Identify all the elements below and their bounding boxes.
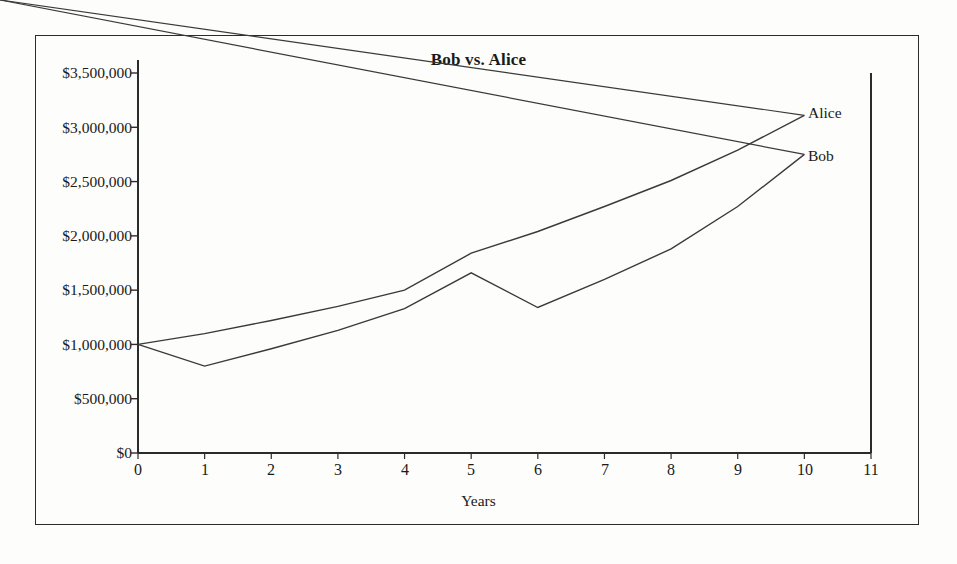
y-tick-label-0: $0 [12,445,132,461]
x-tick-label-6: 6 [518,462,558,478]
chart-page: Bob vs. Alice $0 $500,000 $1,000,000 $1,… [0,0,957,564]
x-tick-label-9: 9 [718,462,758,478]
x-tick-label-8: 8 [651,462,691,478]
y-tick-label-5: $2,500,000 [12,174,132,190]
x-tick-label-3: 3 [318,462,358,478]
x-tick-label-4: 4 [385,462,425,478]
y-tick-label-2: $1,000,000 [12,337,132,353]
y-tick-label-1: $500,000 [12,391,132,407]
y-tick-label-7: $3,500,000 [12,65,132,81]
series-label-bob: Bob [808,148,834,164]
chart-title: Bob vs. Alice [0,50,957,70]
x-tick-label-11: 11 [851,462,891,478]
x-tick-label-5: 5 [451,462,491,478]
y-tick-label-6: $3,000,000 [12,120,132,136]
x-tick-label-10: 10 [785,462,825,478]
x-axis-title: Years [0,492,957,510]
y-tick-label-3: $1,500,000 [12,282,132,298]
series-label-alice: Alice [808,105,842,121]
x-tick-label-1: 1 [185,462,225,478]
x-tick-label-2: 2 [251,462,291,478]
x-tick-label-0: 0 [118,462,158,478]
y-tick-label-4: $2,000,000 [12,228,132,244]
chart-frame [35,35,919,525]
x-tick-label-7: 7 [585,462,625,478]
